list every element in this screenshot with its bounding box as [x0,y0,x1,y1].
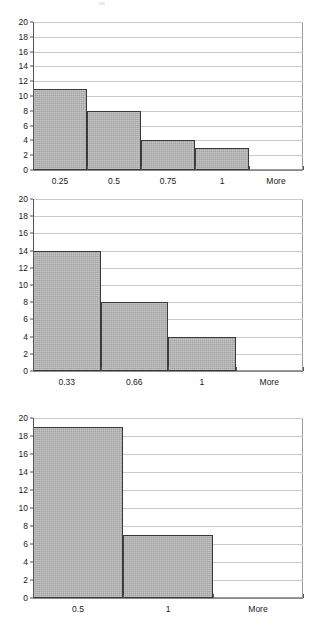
x-axis-tick-label: 0.75 [141,170,195,194]
x-axis-tick-label: 0.5 [33,598,123,622]
x-axis-tick-mark [141,166,142,170]
histogram-chart-3: 024681012141618200.51More [0,418,324,622]
histogram-bar[interactable] [141,140,195,170]
bar-slot [236,199,304,371]
histogram-bar[interactable] [101,302,169,371]
bar-slot [213,418,303,598]
x-axis-tick-mark [87,166,88,170]
x-axis-tick-mark [168,367,169,371]
histogram-sheet: 024681012141618200.250.50.751More 024681… [0,0,324,643]
histogram-bar[interactable] [195,148,249,170]
print-artifact [99,2,105,5]
bar-slot [123,418,213,598]
bar-slot [87,22,141,170]
histogram-bar[interactable] [33,89,87,170]
histogram-chart-1: 024681012141618200.250.50.751More [0,22,324,194]
x-axis-tick-mark [303,594,304,598]
x-axis-tick-mark [33,367,34,371]
x-axis-tick-label: 1 [195,170,249,194]
bar-slot [33,418,123,598]
x-axis-tick-mark [123,594,124,598]
x-axis-tick-mark [213,594,214,598]
x-axis-tick-label: 0.33 [33,371,101,395]
y-axis-line [33,199,34,371]
bar-slot [195,22,249,170]
bar-slot [33,22,87,170]
x-axis-labels: 0.330.661More [33,371,303,395]
x-axis-tick-mark [303,166,304,170]
bar-slot [168,199,236,371]
x-axis-tick-label: 0.25 [33,170,87,194]
x-axis-tick-mark [236,367,237,371]
bar-slot [249,22,303,170]
y-axis-line [33,22,34,170]
x-axis-tick-label: More [249,170,303,194]
y-axis-line [33,418,34,598]
histogram-bar[interactable] [123,535,213,598]
histogram-bar[interactable] [33,427,123,598]
bar-series [33,418,303,598]
plot-area: 02468101214161820 [33,418,303,598]
x-axis-tick-label: 0.5 [87,170,141,194]
x-axis-tick-mark [101,367,102,371]
bar-slot [101,199,169,371]
x-axis-tick-label: 0.66 [101,371,169,395]
x-axis-tick-label: 1 [168,371,236,395]
x-axis-tick-mark [33,594,34,598]
x-axis-tick-label: More [213,598,303,622]
x-axis-labels: 0.51More [33,598,303,622]
x-axis-tick-mark [303,367,304,371]
plot-area: 02468101214161820 [33,22,303,170]
bar-series [33,22,303,170]
x-axis-tick-label: More [236,371,304,395]
histogram-bar[interactable] [168,337,236,371]
bar-slot [33,199,101,371]
histogram-chart-2: 024681012141618200.330.661More [0,199,324,395]
x-axis-tick-mark [195,166,196,170]
plot-area: 02468101214161820 [33,199,303,371]
bar-series [33,199,303,371]
x-axis-tick-label: 1 [123,598,213,622]
histogram-bar[interactable] [33,251,101,371]
x-axis-labels: 0.250.50.751More [33,170,303,194]
bar-slot [141,22,195,170]
x-axis-tick-mark [33,166,34,170]
histogram-bar[interactable] [87,111,141,170]
x-axis-tick-mark [249,166,250,170]
